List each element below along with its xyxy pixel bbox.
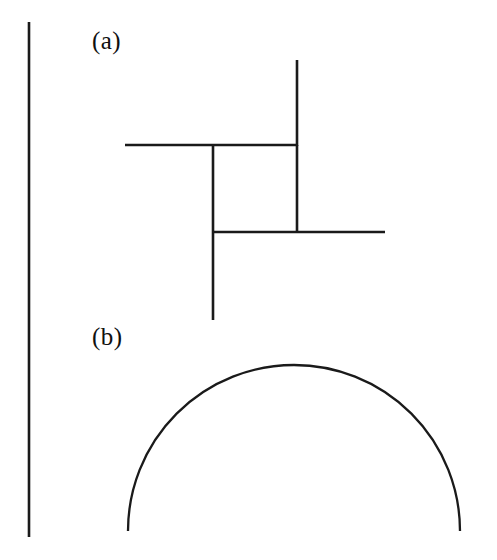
panel-a-drawing	[125, 60, 385, 320]
panel-b-label: (b)	[92, 324, 122, 349]
figure-root: (a) (b)	[0, 0, 497, 560]
panel-a-label: (a)	[92, 28, 121, 53]
panel-b-drawing	[128, 365, 460, 531]
figure-canvas	[0, 0, 497, 560]
dome-arc	[128, 365, 460, 531]
